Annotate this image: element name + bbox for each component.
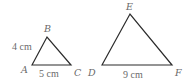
vertex-label-b: B	[43, 23, 51, 34]
vertex-label-e: E	[125, 1, 133, 12]
triangle-def-shape	[102, 14, 172, 65]
vertex-label-d: D	[87, 67, 96, 78]
similar-triangles-diagram: A B C 4 cm 5 cm D E F 9 cm	[0, 0, 190, 83]
vertex-label-a: A	[20, 64, 28, 75]
triangle-abc: A B C 4 cm 5 cm	[12, 23, 82, 79]
side-ab-length: 4 cm	[12, 41, 32, 52]
triangle-def: D E F 9 cm	[87, 1, 182, 80]
side-df-length: 9 cm	[123, 69, 143, 80]
triangle-abc-shape	[32, 37, 71, 65]
vertex-label-c: C	[74, 67, 82, 78]
vertex-label-f: F	[174, 67, 182, 78]
side-ac-length: 5 cm	[39, 68, 59, 79]
